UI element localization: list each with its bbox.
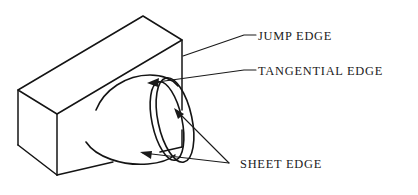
tangential-edge-leader-line — [150, 70, 256, 83]
sheet-edge-lower-arrowhead — [140, 151, 152, 159]
sheet-edge-upper-leader-line — [177, 111, 229, 163]
block-shape — [18, 16, 182, 175]
cylinder-top-tangential-edge — [96, 75, 178, 110]
block-bottom-left-edge — [18, 145, 57, 175]
block-top-face-edge — [18, 16, 182, 114]
block-bottom-right-edge-left-segment — [57, 162, 113, 175]
cylinder-outer-front-ellipse — [149, 74, 200, 165]
cylinder-bottom-tangential-edge — [86, 142, 175, 164]
jump-edge-leader — [183, 35, 256, 56]
diagram-canvas: JUMP EDGE TANGENTIAL EDGE SHEET EDGE — [0, 0, 418, 195]
jump-edge-label: JUMP EDGE — [258, 29, 332, 43]
edge-types-diagram: JUMP EDGE TANGENTIAL EDGE SHEET EDGE — [0, 0, 418, 195]
jump-edge-leader-line — [183, 35, 256, 56]
tangential-edge-label: TANGENTIAL EDGE — [258, 64, 383, 78]
sheet-edge-label: SHEET EDGE — [240, 157, 322, 171]
